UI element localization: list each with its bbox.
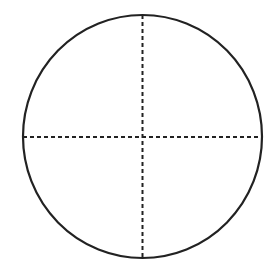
- diagram-canvas: [0, 0, 273, 261]
- quadrant-circle-diagram: [0, 0, 273, 261]
